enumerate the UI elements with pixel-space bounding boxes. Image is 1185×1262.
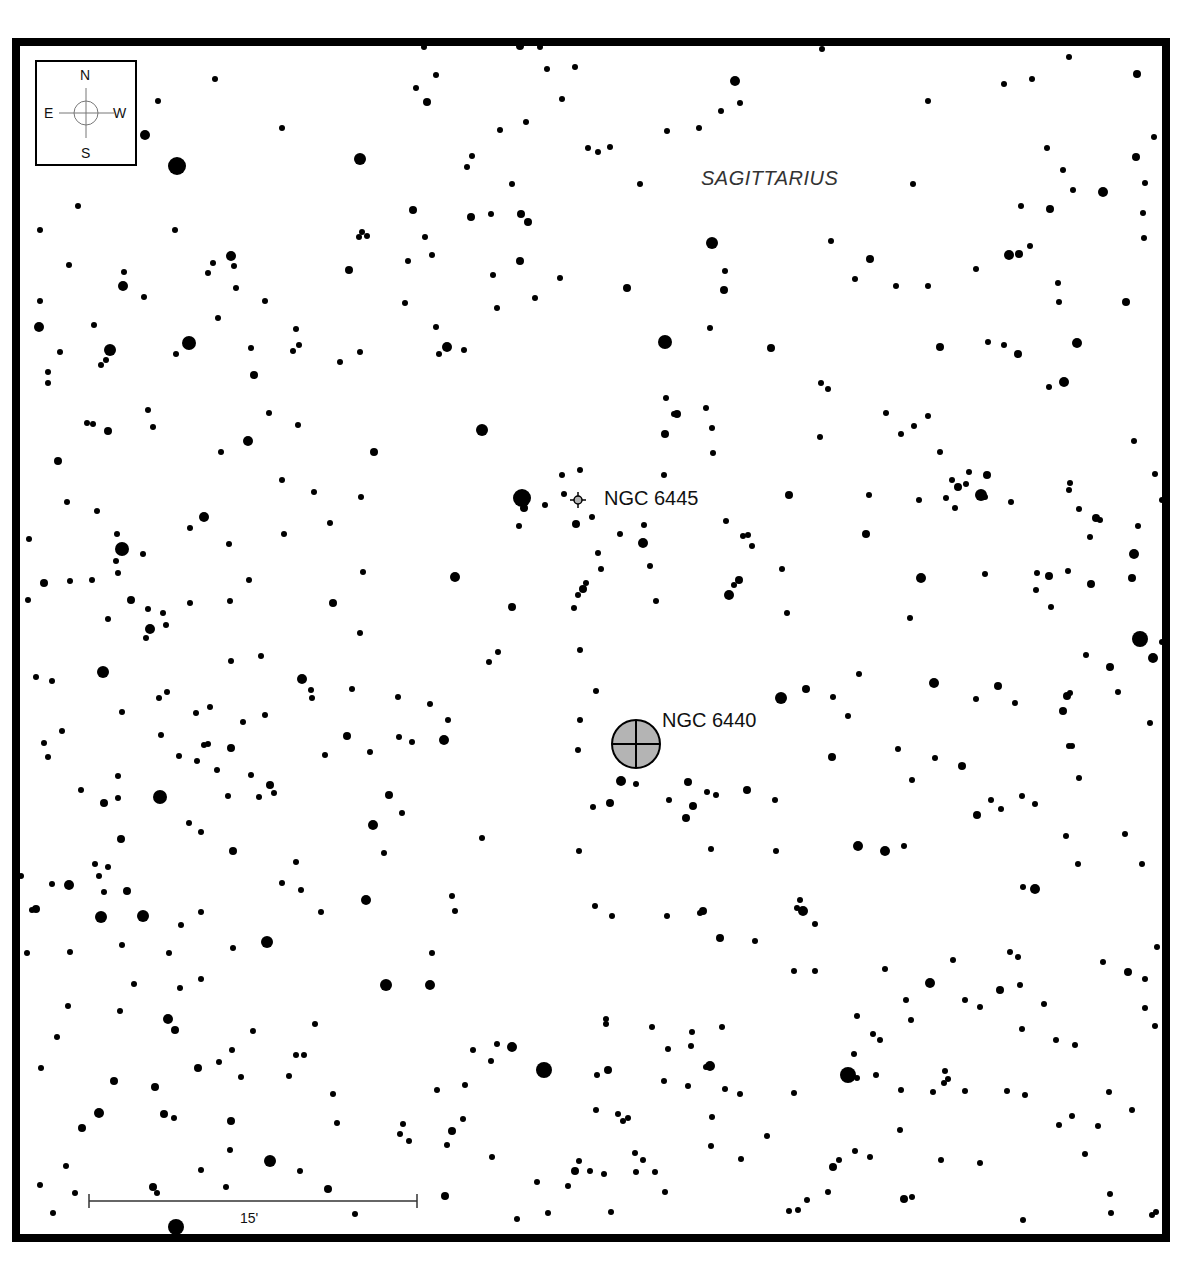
compass-north: N <box>80 67 90 83</box>
scale-bar-label: 15' <box>240 1210 258 1226</box>
constellation-label: SAGITTARIUS <box>701 167 838 190</box>
ngc-6440-label[interactable]: NGC 6440 <box>662 709 757 732</box>
ngc-6445-label[interactable]: NGC 6445 <box>604 487 699 510</box>
chart-frame <box>12 38 1170 1242</box>
compass-west: W <box>113 105 126 121</box>
compass-south: S <box>81 145 90 161</box>
compass-rose: N S E W <box>35 60 137 166</box>
compass-east: E <box>44 105 53 121</box>
